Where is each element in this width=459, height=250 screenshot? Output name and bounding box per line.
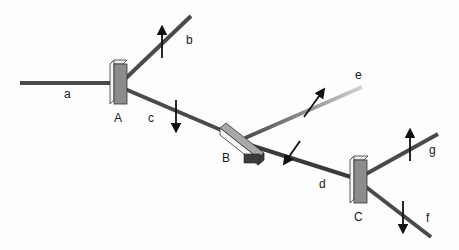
label-component-C: C xyxy=(354,210,363,224)
label-beam-a: a xyxy=(64,87,71,101)
beam-splitter-C xyxy=(350,156,368,203)
beam-b xyxy=(125,16,191,79)
beam-d xyxy=(250,145,354,178)
label-beam-g: g xyxy=(429,143,436,157)
beam-f xyxy=(366,187,431,237)
optics-diagram: a b c d e f g A B C xyxy=(0,0,459,250)
beam-e xyxy=(245,87,362,138)
label-beam-b: b xyxy=(186,33,193,47)
beam-g xyxy=(366,134,438,174)
label-beam-f: f xyxy=(426,211,430,225)
label-component-B: B xyxy=(222,151,230,165)
label-beam-e: e xyxy=(355,68,362,82)
label-component-A: A xyxy=(114,111,122,125)
diagram-canvas: a b c d e f g A B C xyxy=(0,0,459,250)
beam-splitter-A xyxy=(110,60,127,104)
label-beam-c: c xyxy=(148,111,154,125)
label-beam-d: d xyxy=(319,177,326,191)
